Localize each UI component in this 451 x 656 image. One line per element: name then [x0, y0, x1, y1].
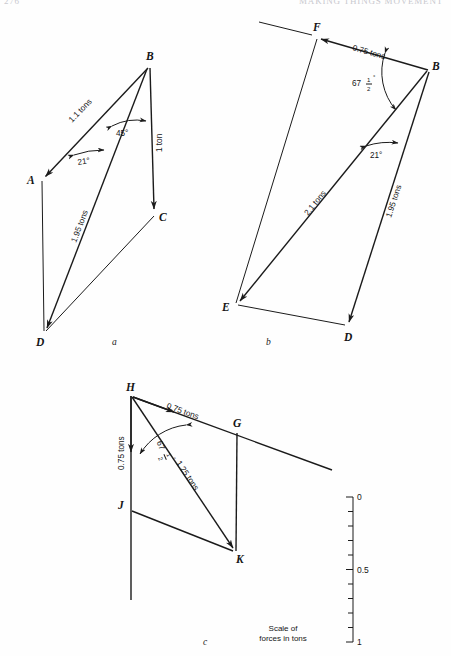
angle-arc-45 [112, 120, 146, 126]
figure-a: A B C D 1.1 tons 1 ton 1.95 tons 45° 21°… [26, 50, 167, 348]
figure-caption-b: b [266, 337, 271, 347]
scale-caption-line1: Scale of [269, 624, 299, 633]
angle-label-b-67half: 67 1 2 ° [352, 74, 376, 92]
side-g-k [236, 433, 237, 551]
force-label-c-1: 0.75 tons [165, 401, 200, 421]
vertex-label-b-E: E [221, 301, 230, 313]
book-page: 276 MAKING THINGS MOVEMENT [0, 0, 451, 656]
vertex-label-a-B: B [145, 50, 154, 62]
side-c-d [46, 216, 154, 331]
force-label-a-1: 1.1 tons [67, 97, 94, 124]
angle-label-b-numerator: 1 [367, 77, 371, 83]
figure-canvas: A B C D 1.1 tons 1 ton 1.95 tons 45° 21°… [0, 0, 451, 656]
scale-tick-label: 0.5 [357, 565, 369, 575]
figure-c: H G J K 0.75 tons 0.75 tons 1.25 tons 67… [117, 381, 332, 647]
angle-label-a-45: 45° [116, 129, 128, 138]
vertex-label-c-J: J [117, 499, 125, 511]
angle-label-b-21: 21° [370, 151, 382, 160]
angle-arc-67half [382, 53, 396, 110]
side-j-k [132, 511, 233, 551]
vertex-label-b-D: D [343, 331, 353, 343]
angle-label-a-21: 21° [77, 156, 91, 167]
vertex-label-a-D: D [35, 336, 45, 348]
angle-label-b-denominator: 2 [367, 86, 371, 92]
force-label-c-3: 1.25 tons [174, 459, 200, 492]
vector-b-to-c [150, 68, 154, 209]
scale-tick-label: 0 [357, 492, 362, 502]
angle-label-c-67half: 67 1 2 ° [151, 437, 177, 466]
angle-label-c-numerator: 1 [165, 452, 172, 458]
angle-label-b-whole: 67 [352, 79, 362, 88]
vector-b-to-d [47, 69, 147, 328]
force-label-a-2: 1 ton [155, 133, 164, 152]
vertex-label-c-G: G [233, 417, 242, 429]
angle-label-c-denominator: 2 [157, 456, 164, 462]
side-f-e [236, 39, 317, 303]
scale-caption-line2: forces in tons [259, 634, 307, 643]
figure-caption-c: c [203, 637, 208, 647]
vector-b-to-d [349, 72, 429, 322]
vertex-label-c-H: H [125, 381, 136, 393]
vertex-label-a-A: A [26, 174, 35, 186]
line-of-action-f [259, 22, 312, 35]
vertex-label-a-C: C [159, 211, 167, 223]
angle-arc-21 [366, 142, 398, 146]
side-a-d [42, 181, 44, 331]
figure-b: F B E D 0.75 tons 2.1 tons 1.95 tons 67 … [221, 21, 440, 347]
angle-label-c-whole: 67 [155, 439, 167, 451]
degree-symbol-c: ° [170, 457, 177, 462]
degree-symbol-b: ° [373, 74, 376, 80]
angle-arc-21 [74, 150, 104, 155]
scale-tick-label: 1 [357, 637, 362, 647]
side-e-d [238, 305, 345, 325]
vector-b-to-a [46, 68, 149, 177]
force-label-c-2: 0.75 tons [117, 436, 126, 470]
vertex-label-c-K: K [235, 553, 245, 565]
vertex-label-b-F: F [312, 21, 321, 33]
vertex-label-b-B: B [431, 60, 440, 72]
scale-tick-group [346, 497, 353, 642]
force-label-b-2: 2.1 tons [303, 189, 328, 217]
scale-of-forces: 00.51 Scale of forces in tons [259, 492, 369, 647]
force-label-b-1: 0.75 tons [351, 43, 386, 61]
scale-number-group: 00.51 [357, 492, 369, 647]
figure-caption-a: a [112, 337, 117, 347]
